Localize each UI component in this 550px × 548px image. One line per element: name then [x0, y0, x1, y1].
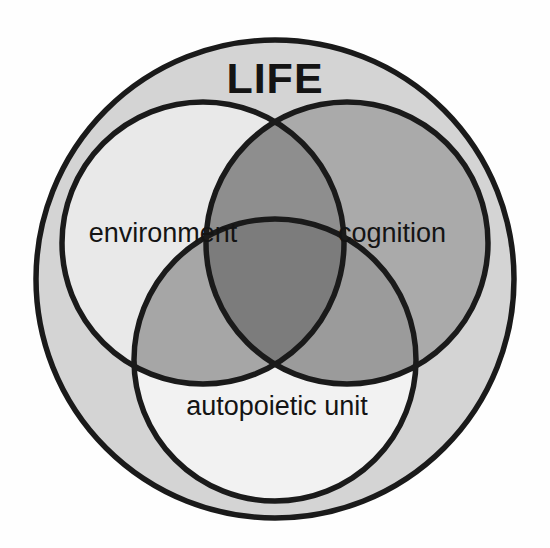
venn-diagram-figure: LIFE environment cognition autopoietic u…	[0, 0, 550, 548]
autopoietic-unit-label: autopoietic unit	[186, 391, 368, 421]
venn-diagram-canvas: LIFE environment cognition autopoietic u…	[0, 0, 550, 548]
cognition-label: cognition	[338, 218, 446, 248]
environment-label: environment	[89, 218, 238, 248]
life-title-label: LIFE	[226, 54, 323, 102]
